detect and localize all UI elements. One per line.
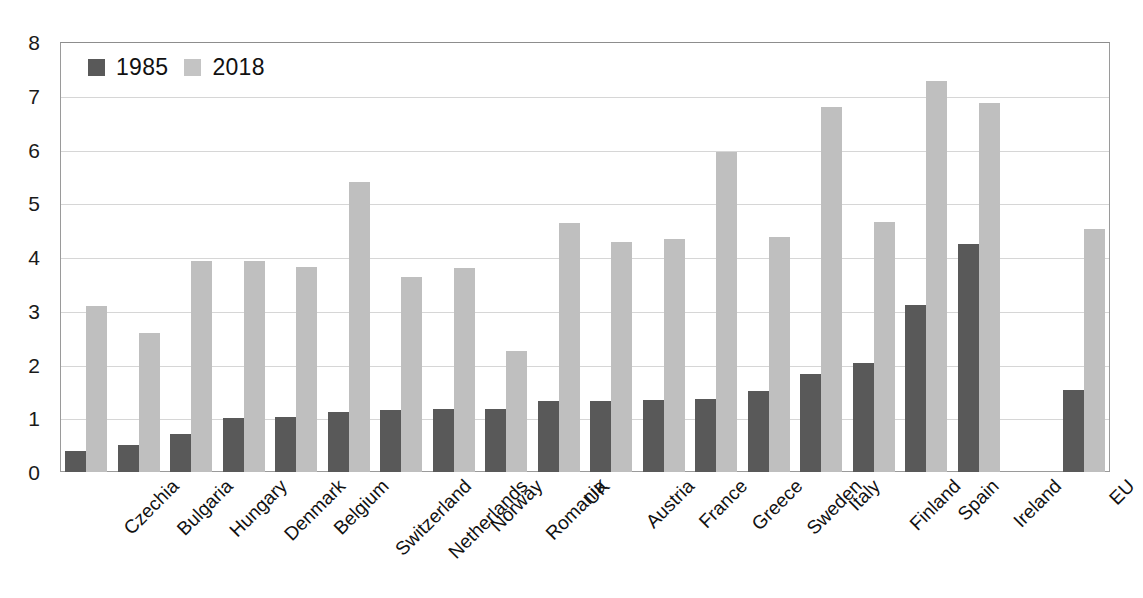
bar-1985 [748,391,769,472]
bar-group [428,42,481,472]
y-tick-label: 4 [28,247,40,268]
bar-1985 [170,434,191,472]
bar-1985 [223,418,244,472]
bar-2018 [139,333,160,472]
dark-gray-swatch [88,59,105,76]
bar-group [1058,42,1111,472]
x-axis-label: Finland [906,476,964,534]
bar-1985 [485,409,506,472]
bar-group [638,42,691,472]
bar-group [795,42,848,472]
bar-2018 [716,152,737,472]
bar-1985 [433,409,454,472]
bar-1985 [328,412,349,472]
bar-1985 [118,445,139,472]
x-axis-label: Ireland [1010,476,1065,531]
y-tick-label: 3 [28,300,40,321]
y-tick-label: 8 [28,32,40,53]
y-tick-label: 5 [28,193,40,214]
x-axis-label: France [695,476,750,531]
bar-1985 [65,451,86,473]
bar-1985 [695,399,716,472]
y-tick-label: 2 [28,354,40,375]
bar-2018 [244,261,265,472]
bar-group [585,42,638,472]
light-gray-swatch [184,59,201,76]
y-tick-label: 7 [28,85,40,106]
bar-2018 [874,222,895,472]
bar-1985 [958,244,979,472]
bar-group [533,42,586,472]
bar-1985 [643,400,664,472]
bar-2018 [769,237,790,472]
bar-chart: 012345678 CzechiaBulgariaHungaryDenmarkB… [0,0,1143,598]
x-axis-label: Bulgaria [173,476,236,539]
x-axis-label: Czechia [120,476,182,538]
legend-label: 1985 [116,56,168,79]
bar-1985 [380,410,401,472]
bar-group [218,42,271,472]
bar-1985 [800,374,821,472]
bar-1985 [538,401,559,472]
legend-entry[interactable]: 1985 [88,56,168,79]
bar-group [60,42,113,472]
legend-entry[interactable]: 2018 [184,56,264,79]
bar-group [323,42,376,472]
bar-2018 [926,81,947,472]
y-tick-label: 6 [28,139,40,160]
bar-group [743,42,796,472]
bar-group [270,42,323,472]
bar-group [375,42,428,472]
bar-group [953,42,1006,472]
legend-label: 2018 [212,56,264,79]
bar-group [690,42,743,472]
bar-group [480,42,533,472]
bar-group [900,42,953,472]
bar-1985 [1063,390,1084,472]
bar-1985 [853,363,874,472]
bar-2018 [191,261,212,472]
bar-1985 [905,305,926,472]
bar-2018 [979,103,1000,472]
x-axis-label: EU [1105,476,1137,508]
bar-2018 [401,277,422,472]
y-tick-label: 1 [28,408,40,429]
chart-legend: 19852018 [88,52,265,82]
bar-1985 [590,401,611,472]
bar-2018 [349,182,370,472]
bar-2018 [821,107,842,473]
bar-group [165,42,218,472]
bar-2018 [86,306,107,472]
bar-2018 [454,268,475,472]
y-axis: 012345678 [0,42,52,472]
bar-2018 [506,351,527,472]
bar-1985 [275,417,296,472]
bar-2018 [296,267,317,472]
bar-2018 [559,223,580,472]
x-axis-labels: CzechiaBulgariaHungaryDenmarkBelgiumSwit… [60,472,1110,598]
y-tick-label: 0 [28,462,40,483]
x-axis-label: Spain [954,476,1002,524]
bar-2018 [611,242,632,472]
bar-group [113,42,166,472]
bar-2018 [664,239,685,472]
x-axis-label: Denmark [280,476,348,544]
x-axis-label: Greece [749,476,806,533]
bars-layer [60,42,1110,472]
bar-2018 [1084,229,1105,472]
bar-group [1005,42,1058,472]
bar-group [848,42,901,472]
x-axis-label: Austria [643,476,698,531]
